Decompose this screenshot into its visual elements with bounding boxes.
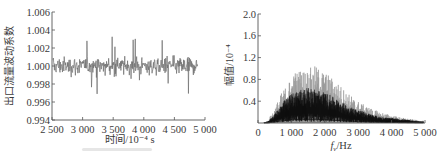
- x-tick-label: 5 000: [413, 127, 437, 138]
- y-tick-label: 1.002: [26, 43, 50, 54]
- time-series-y-axis-title: 出口流量波动系数: [3, 26, 15, 106]
- caption-remnant: [82, 148, 152, 151]
- x-tick-label: 2 000: [313, 127, 337, 138]
- x-tick-label: 3 000: [71, 124, 95, 135]
- y-tick-label: 1.6: [243, 30, 256, 41]
- spectrum-x-axis-title: fv/Hz: [330, 140, 352, 153]
- spectrum-signal: [264, 66, 423, 123]
- x-tick-label: 4 500: [163, 124, 187, 135]
- spectrum-chart: 0.40.81.21.62.0 01 0002 0003 0004 0005 0…: [223, 9, 437, 154]
- time-series-x-axis-title: 时间/10⁻⁴ s: [105, 133, 154, 145]
- spectrum-x-tick-labels: 01 0002 0003 0004 0005 000: [255, 127, 436, 138]
- figure: 0.9940.9960.9981.0001.0021.0041.006 2 50…: [0, 0, 442, 160]
- y-tick-label: 1.2: [243, 52, 256, 63]
- y-tick-label: 1.004: [26, 25, 50, 36]
- y-tick-label: 0.998: [26, 79, 50, 90]
- time-series-y-tick-labels: 0.9940.9960.9981.0001.0021.0041.006: [26, 7, 50, 126]
- x-tick-label: 4 000: [380, 127, 404, 138]
- time-series-chart: 0.9940.9960.9981.0001.0021.0041.006 2 50…: [3, 7, 217, 146]
- y-tick-label: 1.000: [26, 61, 50, 72]
- y-tick-label: 0.4: [243, 96, 257, 107]
- x-tick-label: 5 000: [193, 124, 217, 135]
- signal-line: [53, 37, 198, 94]
- time-series-signal: [53, 37, 198, 94]
- x-tick-label: 1 000: [280, 127, 304, 138]
- y-tick-label: 2.0: [243, 9, 256, 20]
- y-tick-label: 1.006: [26, 7, 50, 18]
- x-tick-label: 3 000: [346, 127, 370, 138]
- spectrum-y-tick-labels: 0.40.81.21.62.0: [243, 9, 257, 107]
- x-tick-label: 2 500: [40, 124, 64, 135]
- y-tick-label: 0.996: [26, 97, 50, 108]
- x-tick-label: 0: [255, 127, 260, 138]
- spectrum-y-axis-title: 幅值/10⁻⁴: [223, 44, 235, 86]
- y-tick-label: 0.8: [243, 74, 256, 85]
